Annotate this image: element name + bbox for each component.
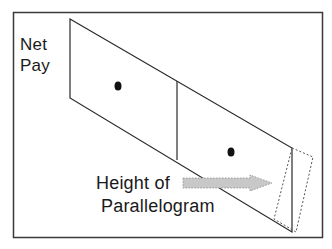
y-axis-label-net: Net	[20, 35, 47, 54]
right-region-dot	[228, 148, 235, 157]
left-region-dot	[115, 82, 122, 91]
height-arrow-icon	[183, 175, 272, 191]
dashed-rotated-quad	[274, 148, 313, 232]
annotation-height-of: Height of	[96, 174, 170, 193]
y-axis-label-pay: Pay	[20, 56, 50, 75]
annotation-parallelogram: Parallelogram	[101, 197, 215, 216]
